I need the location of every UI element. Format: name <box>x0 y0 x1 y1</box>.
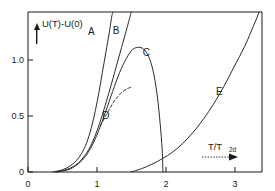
curve-label-e: E <box>216 86 223 97</box>
curve-label-a: A <box>88 26 95 37</box>
curve-label-b: B <box>113 25 120 36</box>
x-axis-title-subscript: 2d <box>229 146 237 153</box>
plot-frame <box>28 12 262 172</box>
x-ticklabel-1: 1 <box>94 179 99 189</box>
chart-canvas: 0 0.5 1.0 0 1 2 3 U(T)-U(0) T/T 2d <box>0 0 275 191</box>
curve-a <box>53 12 114 172</box>
x-ticklabel-0: 0 <box>25 179 30 189</box>
y-ticklabel-1-0: 1.0 <box>11 55 24 65</box>
x-ticklabel-2: 2 <box>163 179 168 189</box>
y-ticklabel-0-5: 0.5 <box>11 111 24 121</box>
y-axis-title: U(T)-U(0) <box>42 18 83 29</box>
x-axis-title-group: T/T 2d <box>202 141 238 160</box>
x-axis-tick-labels: 0 1 2 3 <box>25 179 237 189</box>
frame-border <box>28 12 262 172</box>
curve-e <box>131 12 259 172</box>
chart-figure: 0 0.5 1.0 0 1 2 3 U(T)-U(0) T/T 2d <box>0 0 275 191</box>
curve-label-d: D <box>102 110 109 121</box>
up-arrow-stem <box>36 28 37 44</box>
y-ticklabel-0: 0 <box>19 167 24 177</box>
curve-label-c: C <box>143 47 150 58</box>
right-arrow-icon <box>229 154 238 161</box>
x-ticklabel-3: 3 <box>232 179 237 189</box>
curve-c <box>57 47 163 172</box>
x-axis-title: T/T <box>208 141 222 152</box>
y-axis-tick-labels: 0 0.5 1.0 <box>11 55 24 177</box>
y-axis-title-group: U(T)-U(0) <box>34 18 83 44</box>
y-axis-ticks <box>28 60 33 172</box>
